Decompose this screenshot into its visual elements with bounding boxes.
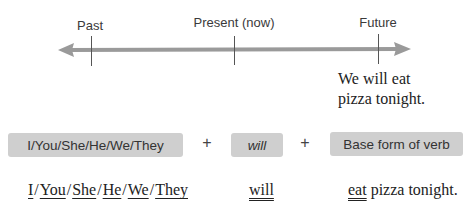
example-sentence-line2: pizza tonight. xyxy=(338,89,425,109)
verb-example: eat pizza tonight. xyxy=(348,181,458,199)
subject-he: He xyxy=(103,181,122,198)
subject-we: We xyxy=(128,181,149,198)
will-box: will xyxy=(231,133,283,157)
example-sentence: We will eat pizza tonight. xyxy=(338,69,425,109)
subjects-example: I/You/She/He/We/They xyxy=(28,181,188,199)
separator: / xyxy=(150,181,154,198)
subject-she: She xyxy=(72,181,96,198)
future-tick xyxy=(378,34,379,64)
will-example: will xyxy=(249,181,274,199)
double-arrow-icon xyxy=(0,0,474,80)
example-sentence-line1: We will eat xyxy=(338,69,425,89)
separator: / xyxy=(67,181,71,198)
present-label: Present (now) xyxy=(194,15,275,30)
subject-you: You xyxy=(40,181,66,198)
present-tick xyxy=(234,36,235,65)
past-label: Past xyxy=(77,18,103,33)
separator: / xyxy=(122,181,126,198)
plus-sign-2: + xyxy=(300,134,309,152)
plus-sign-1: + xyxy=(202,134,211,152)
verb-word: eat xyxy=(348,181,367,198)
separator: / xyxy=(34,181,38,198)
past-tick xyxy=(91,36,92,66)
subject-i: I xyxy=(28,181,33,198)
subject-they: They xyxy=(155,181,188,198)
rest-of-sentence: pizza tonight. xyxy=(367,181,458,198)
separator: / xyxy=(97,181,101,198)
will-word: will xyxy=(249,181,274,198)
subject-box: I/You/She/He/We/They xyxy=(8,133,183,157)
future-label: Future xyxy=(359,15,397,30)
verb-box: Base form of verb xyxy=(330,132,463,156)
